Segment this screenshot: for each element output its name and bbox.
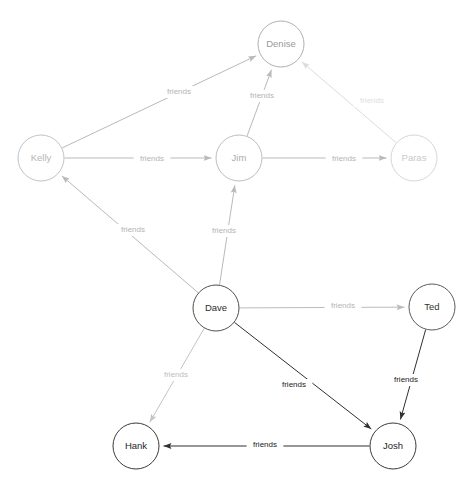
node-kelly[interactable]: Kelly [18, 135, 64, 181]
node-hank[interactable]: Hank [113, 423, 159, 469]
node-label-dave: Dave [205, 302, 227, 313]
edge-label-ted-josh: friends [394, 375, 418, 384]
node-dave[interactable]: Dave [193, 285, 239, 331]
graph-canvas: friendsfriendsfriendsfriendsfriendsfrien… [0, 0, 474, 489]
edge-label-dave-kelly: friends [121, 225, 145, 234]
node-ted[interactable]: Ted [409, 284, 455, 330]
node-label-ted: Ted [424, 301, 439, 312]
node-label-kelly: Kelly [31, 152, 52, 163]
graph-svg: friendsfriendsfriendsfriendsfriendsfrien… [0, 0, 474, 489]
nodes-layer: KellyDeniseJimParasDaveTedHankJosh [18, 21, 455, 469]
node-josh[interactable]: Josh [370, 423, 416, 469]
node-jim[interactable]: Jim [216, 135, 262, 181]
edge-label-paras-denise: friends [360, 96, 384, 105]
edge-label-jim-denise: friends [250, 91, 274, 100]
edge-label-dave-ted: friends [331, 301, 355, 310]
node-paras[interactable]: Paras [391, 135, 437, 181]
edge-label-jim-paras: friends [332, 154, 356, 163]
edge-label-kelly-jim: friends [140, 154, 164, 163]
node-label-josh: Josh [383, 440, 403, 451]
edges-layer [62, 56, 426, 446]
node-label-paras: Paras [402, 152, 427, 163]
edge-label-dave-josh: friends [282, 380, 306, 389]
edge-label-josh-hank: friends [253, 440, 277, 449]
node-label-hank: Hank [125, 440, 147, 451]
footer-caption [0, 479, 474, 489]
node-label-denise: Denise [266, 38, 296, 49]
node-label-jim: Jim [232, 152, 247, 163]
edge-jim-denise[interactable] [247, 70, 271, 136]
edge-label-kelly-denise: friends [167, 87, 191, 96]
edge-dave-josh[interactable] [235, 322, 372, 429]
edge-label-dave-jim: friends [212, 226, 236, 235]
edge-kelly-denise[interactable] [62, 56, 256, 148]
edge-label-dave-hank: friends [164, 370, 188, 379]
edge-labels-layer: friendsfriendsfriendsfriendsfriendsfrien… [115, 86, 425, 451]
node-denise[interactable]: Denise [258, 21, 304, 67]
edge-dave-ted[interactable] [239, 307, 404, 308]
